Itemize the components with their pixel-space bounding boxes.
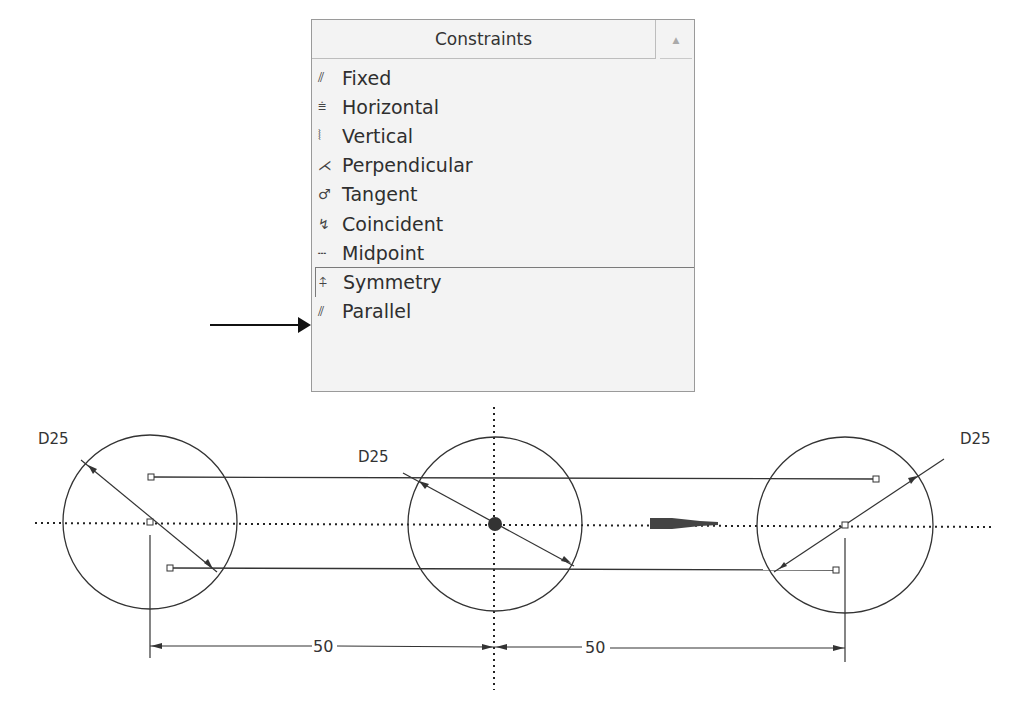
chevron-up-icon: ▲ [673,35,680,45]
constraint-item-symmetry[interactable]: ⍏ Symmetry [315,267,694,296]
tangent-icon: ♂ [318,186,340,202]
horizontal-centerline [35,523,995,527]
symmetry-icon: ⍏ [319,274,341,291]
dimension-label-right[interactable]: 50 [585,638,605,657]
lower-line[interactable] [170,568,836,570]
parallel-icon: ⫽ [318,303,340,320]
constraints-list: ⫽ Fixed ⩧ Horizontal ⦚ Vertical ⋌ Perpen… [312,63,694,326]
constraint-label: Parallel [342,300,411,322]
constraint-item-coincident[interactable]: ↯ Coincident [312,209,694,238]
panel-title: Constraints [312,20,656,59]
constraint-item-parallel[interactable]: ⫽ Parallel [312,297,694,326]
constraint-item-horizontal[interactable]: ⩧ Horizontal [312,92,694,121]
pointer-arrow [210,317,311,333]
vertical-icon: ⦚ [318,127,340,144]
diameter-label-right[interactable]: D25 [960,430,991,448]
constraint-label: Perpendicular [342,154,473,176]
coincident-icon: ↯ [318,216,340,232]
midpoint-icon: ┄ [318,245,340,261]
constraint-label: Fixed [342,67,391,89]
upper-line[interactable] [151,477,876,479]
constraint-label: Coincident [342,213,443,235]
constraint-item-tangent[interactable]: ♂ Tangent [312,180,694,209]
constraint-label: Vertical [342,125,413,147]
diameter-label-left[interactable]: D25 [38,430,69,448]
constraints-panel: Constraints ▲ ⫽ Fixed ⩧ Horizontal ⦚ Ver… [311,19,695,392]
horizontal-icon: ⩧ [318,98,340,115]
dimension-label-left[interactable]: 50 [313,637,333,656]
perpendicular-icon: ⋌ [318,157,340,173]
constraint-item-midpoint[interactable]: ┄ Midpoint [312,238,694,267]
fixed-icon: ⫽ [318,69,340,86]
constraint-label: Symmetry [343,271,442,293]
constraint-item-vertical[interactable]: ⦚ Vertical [312,121,694,150]
diameter-leader-center [403,473,574,566]
diameter-label-center[interactable]: D25 [358,448,389,466]
constraint-label: Horizontal [342,96,439,118]
constraint-label: Tangent [342,183,417,205]
constraint-item-fixed[interactable]: ⫽ Fixed [312,63,694,92]
constraint-label: Midpoint [342,242,424,264]
cursor-preview-icon [650,518,718,529]
constraint-item-perpendicular[interactable]: ⋌ Perpendicular [312,151,694,180]
diameter-leader-right [774,459,944,572]
collapse-button[interactable]: ▲ [660,22,692,59]
origin-point [488,517,502,531]
